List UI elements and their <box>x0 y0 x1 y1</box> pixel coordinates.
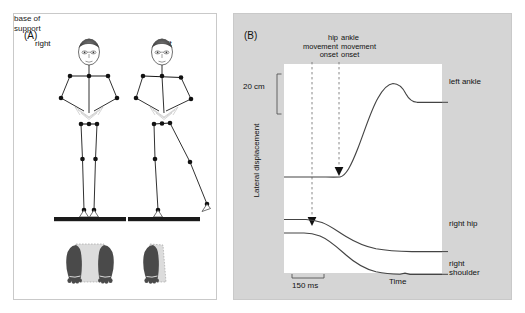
hips-stepping <box>152 121 173 127</box>
stick-figures-graphic <box>14 14 218 301</box>
scale-bar-horizontal-label: 150 ms <box>292 281 318 290</box>
scale-bar-vertical <box>277 74 282 114</box>
footprints-double-stance <box>66 244 114 284</box>
scale-bar-vertical-label: 20 cm <box>243 82 265 91</box>
hips-upright <box>79 122 100 127</box>
stick-figure-upright <box>54 39 126 221</box>
head-upright <box>79 39 100 65</box>
shoulder-label-line-2: shoulder <box>449 268 480 277</box>
label-connectors <box>442 102 448 274</box>
footprint-single-stance <box>143 244 166 284</box>
x-axis-label: Time <box>389 277 406 286</box>
trace-label-right-hip: right hip <box>449 219 477 228</box>
hip-onset-marker <box>308 62 317 226</box>
ankle-onset-marker <box>335 62 344 176</box>
trace-right-shoulder <box>284 233 442 274</box>
stick-figure-stepping <box>128 39 211 221</box>
figure-root: (A) right left base of support <box>0 0 525 313</box>
trace-label-left-ankle: left ankle <box>449 77 481 86</box>
swing-leg-stepping <box>170 123 211 212</box>
panel-a: (A) right left base of support <box>13 13 217 300</box>
ground-bar-stepping <box>128 217 200 221</box>
trace-right-hip <box>284 220 442 252</box>
trace-left-ankle <box>284 84 442 178</box>
ground-bar-upright <box>54 217 126 221</box>
stance-leg-stepping <box>153 124 163 217</box>
trace-label-right-shoulder: right shoulder <box>449 259 480 278</box>
head-stepping <box>152 39 173 65</box>
panel-b: (B) hip movement onset ankle movement on… <box>233 13 512 300</box>
torso-upright <box>59 74 120 120</box>
scale-bar-horizontal <box>292 274 324 278</box>
plot-graphics <box>234 14 513 301</box>
y-axis-label: Lateral displacement <box>252 101 261 221</box>
legs-upright <box>80 124 99 217</box>
torso-stepping <box>134 74 194 120</box>
shoulder-label-line-1: right <box>449 259 465 268</box>
